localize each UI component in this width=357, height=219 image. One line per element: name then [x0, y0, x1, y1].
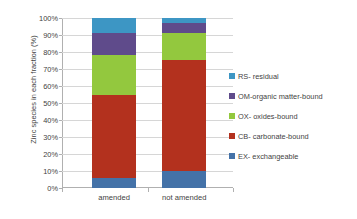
x-tick-mark [62, 188, 63, 192]
legend-swatch-icon [229, 133, 235, 139]
bar-segment[interactable] [162, 18, 206, 23]
y-tick-mark [59, 103, 62, 104]
plot-area [62, 18, 233, 188]
y-tick-label: 0% [24, 184, 58, 193]
stacked-bar-chart: Zinc species in each fraction (%) 0%10%2… [0, 0, 357, 219]
legend-item[interactable]: CB- carbonate-bound [229, 126, 357, 146]
bar-amended[interactable] [92, 18, 136, 188]
y-tick-mark [59, 69, 62, 70]
y-tick-mark [59, 18, 62, 19]
legend-item[interactable]: OM-organic matter-bound [229, 86, 357, 106]
y-tick-label: 30% [24, 133, 58, 142]
y-tick-mark [59, 35, 62, 36]
y-tick-mark [59, 52, 62, 53]
y-tick-mark [59, 86, 62, 87]
gridline [62, 52, 233, 53]
gridline [62, 103, 233, 104]
legend-swatch-icon [229, 113, 235, 119]
gridline [62, 154, 233, 155]
y-tick-label: 60% [24, 82, 58, 91]
bar-segment[interactable] [162, 33, 206, 59]
legend-item[interactable]: OX- oxides-bound [229, 106, 357, 126]
x-tick-mark [233, 188, 234, 192]
y-tick-label: 100% [24, 14, 58, 23]
legend: RS- residualOM-organic matter-boundOX- o… [229, 66, 357, 166]
legend-item[interactable]: RS- residual [229, 66, 357, 86]
legend-label: RS- residual [238, 72, 279, 81]
bar-segment[interactable] [92, 178, 136, 188]
legend-item[interactable]: EX- exchangeable [229, 146, 357, 166]
legend-label: OM-organic matter-bound [238, 92, 323, 101]
bar-segment[interactable] [92, 33, 136, 55]
y-tick-mark [59, 171, 62, 172]
y-tick-label: 20% [24, 150, 58, 159]
y-tick-mark [59, 137, 62, 138]
gridline [62, 137, 233, 138]
y-tick-label: 70% [24, 65, 58, 74]
gridline [62, 171, 233, 172]
gridline [62, 35, 233, 36]
bar-segment[interactable] [92, 55, 136, 94]
legend-label: OX- oxides-bound [238, 112, 298, 121]
y-tick-label: 50% [24, 99, 58, 108]
gridline [62, 69, 233, 70]
y-tick-mark [59, 120, 62, 121]
x-category-label: not amended [134, 193, 234, 202]
legend-swatch-icon [229, 153, 235, 159]
legend-swatch-icon [229, 73, 235, 79]
gridline [62, 18, 233, 19]
legend-label: EX- exchangeable [238, 152, 298, 161]
bar-segment[interactable] [162, 171, 206, 188]
y-tick-label: 80% [24, 48, 58, 57]
bar-not-amended[interactable] [162, 18, 206, 188]
bar-segment[interactable] [162, 60, 206, 171]
gridline [62, 86, 233, 87]
bar-segment[interactable] [162, 23, 206, 33]
y-tick-label: 90% [24, 31, 58, 40]
y-tick-label: 40% [24, 116, 58, 125]
gridline [62, 120, 233, 121]
legend-swatch-icon [229, 93, 235, 99]
y-tick-label: 10% [24, 167, 58, 176]
legend-label: CB- carbonate-bound [238, 132, 309, 141]
bar-segment[interactable] [92, 18, 136, 33]
bar-segment[interactable] [92, 95, 136, 178]
x-tick-mark [148, 188, 149, 192]
y-tick-mark [59, 154, 62, 155]
